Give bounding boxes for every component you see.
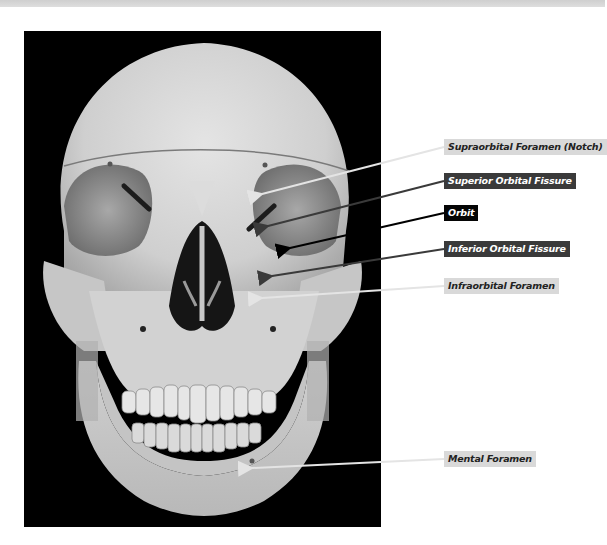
- label-orbit: Orbit: [444, 205, 478, 221]
- label-inferior-orbital-fissure: Inferior Orbital Fissure: [444, 241, 570, 257]
- top-bar: [0, 0, 605, 7]
- label-mental-foramen: Mental Foramen: [444, 451, 536, 467]
- label-infraorbital-foramen: Infraorbital Foramen: [444, 278, 559, 294]
- label-supraorbital-foramen: Supraorbital Foramen (Notch): [444, 139, 607, 155]
- skull-illustration: [24, 31, 381, 527]
- label-superior-orbital-fissure: Superior Orbital Fissure: [444, 173, 576, 189]
- skull-photo: [24, 31, 381, 527]
